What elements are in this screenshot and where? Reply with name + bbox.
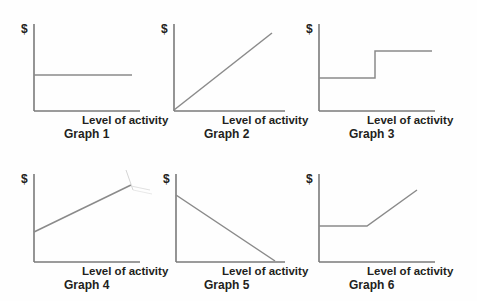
y-axis-label: $ xyxy=(161,23,168,35)
x-axis-label: Level of activity xyxy=(367,265,453,277)
y-axis-label: $ xyxy=(21,173,28,185)
cost-behavior-line xyxy=(319,51,432,78)
graph-panel-1: $ Level of activity Graph 1 xyxy=(0,0,159,150)
y-axis-label: $ xyxy=(21,23,28,35)
cost-behavior-line xyxy=(319,190,417,226)
graph-collection: $ Level of activity Graph 1 $ Level of a… xyxy=(0,0,477,301)
graph-panel-6: $ Level of activity Graph 6 xyxy=(285,150,477,300)
y-axis-label: $ xyxy=(306,23,313,35)
graph-panel-3: $ Level of activity Graph 3 xyxy=(285,0,477,150)
graph-caption: Graph 4 xyxy=(64,279,109,292)
graph-panel-4: $ Level of activity Graph 4 xyxy=(0,150,159,300)
graph-caption: Graph 1 xyxy=(64,128,109,141)
graph-caption: Graph 5 xyxy=(204,279,249,292)
cost-behavior-line xyxy=(176,195,275,261)
x-axis-label: Level of activity xyxy=(367,114,453,126)
graph-panel-2: $ Level of activity Graph 2 xyxy=(140,0,299,150)
cost-behavior-line xyxy=(34,185,131,232)
y-axis-label: $ xyxy=(163,173,170,185)
y-axis-label: $ xyxy=(306,173,313,185)
cost-behavior-line xyxy=(174,33,272,110)
graph-caption: Graph 3 xyxy=(349,128,394,141)
graph-panel-5: $ Level of activity Graph 5 xyxy=(140,150,299,300)
graph-caption: Graph 6 xyxy=(349,279,394,292)
graph-caption: Graph 2 xyxy=(204,128,249,141)
